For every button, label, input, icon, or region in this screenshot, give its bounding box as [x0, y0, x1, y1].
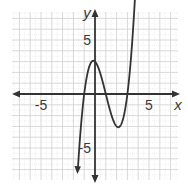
curve-down-arrow-icon [74, 166, 81, 174]
x-axis-label: x [173, 96, 182, 113]
y-tick-label: 5 [83, 32, 91, 48]
axes [12, 9, 180, 183]
y-tick-label: -5 [79, 140, 92, 156]
y-axis-down-arrow-icon [92, 175, 99, 183]
x-tick-label: -5 [35, 97, 48, 113]
x-axis-left-arrow-icon [12, 91, 20, 98]
cubic-function-graph: -555-5xy [0, 0, 188, 184]
x-tick-label: 5 [145, 97, 153, 113]
